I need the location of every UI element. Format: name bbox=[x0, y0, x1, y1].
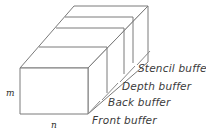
buffer-label-front: Front buffer bbox=[92, 114, 157, 126]
buffer-label-back: Back buffer bbox=[108, 96, 171, 108]
framebuffer-diagram: m n Front buffer Back buffer Depth buffe… bbox=[0, 0, 206, 135]
box-front-face bbox=[20, 68, 88, 114]
buffer-label-depth: Depth buffer bbox=[122, 80, 192, 92]
dimension-label-m: m bbox=[6, 88, 15, 98]
dimension-label-n: n bbox=[51, 120, 57, 130]
diagram-canvas: m n Front buffer Back buffer Depth buffe… bbox=[0, 0, 206, 135]
buffer-label-stencil: Stencil buffer bbox=[138, 62, 206, 74]
